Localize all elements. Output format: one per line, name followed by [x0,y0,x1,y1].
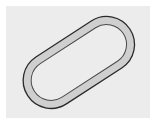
racetrack-ring-figure [0,0,157,129]
